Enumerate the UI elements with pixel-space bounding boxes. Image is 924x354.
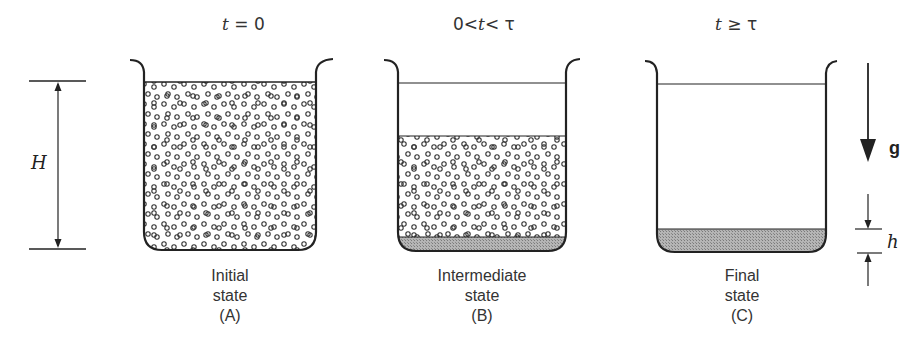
beaker-a [130,59,333,254]
caption-b: Intermediate state (B) [422,266,542,326]
beaker-c [645,61,837,254]
time-label-b: 0<t< τ [453,14,515,34]
caption-line: (A) [180,306,280,326]
gravity-arrow-icon [860,63,876,162]
label-g: g [889,138,900,159]
height-dimension-h [855,194,882,286]
beaker-b [384,59,580,254]
caption-line: (B) [422,306,542,326]
caption-line: state [180,286,280,306]
time-prefix: 0< [453,14,478,34]
time-variable: t [478,14,485,34]
caption-c: Final state (C) [692,266,792,326]
time-variable: t [715,14,722,34]
label-h: h [887,231,899,252]
time-label-a: t = 0 [222,14,265,34]
caption-line: (C) [692,306,792,326]
time-suffix: ≥ τ [722,14,757,34]
caption-line: state [422,286,542,306]
caption-line: Intermediate [422,266,542,286]
time-label-c: t ≥ τ [715,14,757,34]
caption-line: Final [692,266,792,286]
time-suffix: < τ [485,14,515,34]
caption-line: Initial [180,266,280,286]
caption-line: state [692,286,792,306]
time-variable: t [222,14,229,34]
label-H: H [31,152,47,173]
caption-a: Initial state (A) [180,266,280,326]
time-suffix: = 0 [229,14,265,34]
